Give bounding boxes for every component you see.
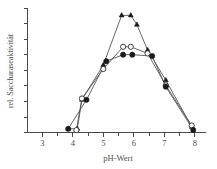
x-tick-label: 7 <box>162 138 166 148</box>
chart-plot-area: 3 4 5 6 7 8 pH-Wert rel. Saccharaseaktiv… <box>0 0 217 169</box>
chart-figure: 3 4 5 6 7 8 pH-Wert rel. Saccharaseaktiv… <box>0 0 217 169</box>
data-point-open-circle <box>101 66 106 71</box>
data-point-filled-circle <box>66 126 71 131</box>
data-point-filled-circle <box>84 97 89 102</box>
series-line-open-circles <box>76 47 191 130</box>
x-tick-labels: 3 4 5 6 7 8 <box>40 138 197 148</box>
data-point-filled-circle <box>104 59 109 64</box>
data-point-triangle <box>128 13 133 17</box>
x-tick-label: 8 <box>193 138 197 148</box>
y-axis-ticks <box>24 8 28 133</box>
data-point-filled-circle <box>191 127 196 132</box>
data-point-open-circle <box>74 128 79 133</box>
data-point-filled-circle <box>130 52 135 57</box>
data-point-filled-circle <box>163 84 168 89</box>
data-point-open-circle <box>121 44 126 49</box>
series-line-triangles <box>68 15 192 128</box>
x-tick-label: 4 <box>71 138 76 148</box>
data-point-filled-circle <box>121 52 126 57</box>
x-tick-label: 5 <box>101 138 105 148</box>
data-point-triangle <box>119 13 124 17</box>
x-tick-label: 3 <box>40 138 44 148</box>
x-axis-ticks <box>42 133 195 138</box>
series-markers-filled-circles <box>66 52 196 132</box>
x-tick-label: 6 <box>132 138 136 148</box>
series-markers-triangles <box>66 13 194 131</box>
data-point-filled-circle <box>150 53 155 58</box>
data-point-open-circle <box>128 44 133 49</box>
x-axis-title: pH-Wert <box>103 153 133 163</box>
y-axis-title: rel. Saccharaseaktivität <box>6 33 15 108</box>
